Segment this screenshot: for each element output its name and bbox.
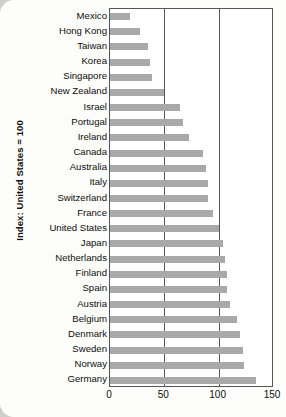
- category-label: Spain: [14, 282, 107, 293]
- category-label: Sweden: [14, 343, 107, 354]
- category-label: Netherlands: [14, 252, 107, 263]
- plot-area: [109, 8, 273, 387]
- bar: [110, 89, 164, 96]
- bar: [110, 301, 230, 308]
- bar: [110, 28, 140, 35]
- bar: [110, 13, 130, 20]
- bar: [110, 256, 225, 263]
- category-label: Canada: [14, 146, 107, 157]
- x-tick-label: 50: [143, 389, 183, 400]
- category-label: New Zealand: [14, 85, 107, 96]
- bar: [110, 43, 148, 50]
- bar: [110, 180, 208, 187]
- category-label: Switzerland: [14, 192, 107, 203]
- category-label: Japan: [14, 237, 107, 248]
- bar: [110, 377, 256, 384]
- bar: [110, 59, 150, 66]
- category-label: Israel: [14, 101, 107, 112]
- category-label: Taiwan: [14, 40, 107, 51]
- bar: [110, 331, 240, 338]
- category-label: Germany: [14, 373, 107, 384]
- bar: [110, 225, 219, 232]
- bar-chart: MexicoHong KongTaiwanKoreaSingaporeNew Z…: [0, 0, 286, 417]
- gridline-100: [219, 9, 220, 386]
- category-label: Australia: [14, 161, 107, 172]
- category-axis-labels: MexicoHong KongTaiwanKoreaSingaporeNew Z…: [14, 8, 107, 387]
- bar: [110, 240, 223, 247]
- category-label: Ireland: [14, 131, 107, 142]
- category-label: Italy: [14, 176, 107, 187]
- x-tick-label: 0: [89, 389, 129, 400]
- category-label: France: [14, 207, 107, 218]
- bar: [110, 271, 227, 278]
- bar: [110, 362, 244, 369]
- x-tick-label: 150: [252, 389, 286, 400]
- x-tick-label: 100: [198, 389, 238, 400]
- bar: [110, 286, 227, 293]
- bar: [110, 347, 243, 354]
- category-label: Finland: [14, 267, 107, 278]
- category-label: Hong Kong: [14, 25, 107, 36]
- bar: [110, 134, 189, 141]
- category-label: United States: [14, 222, 107, 233]
- category-label: Norway: [14, 358, 107, 369]
- bar: [110, 104, 180, 111]
- bar: [110, 119, 183, 126]
- category-label: Denmark: [14, 328, 107, 339]
- bar: [110, 150, 203, 157]
- bar: [110, 210, 213, 217]
- category-label: Austria: [14, 298, 107, 309]
- bar: [110, 165, 206, 172]
- category-label: Belgium: [14, 313, 107, 324]
- bar: [110, 195, 208, 202]
- category-label: Portugal: [14, 116, 107, 127]
- category-label: Mexico: [14, 10, 107, 21]
- bar: [110, 74, 152, 81]
- bar: [110, 316, 237, 323]
- category-label: Korea: [14, 55, 107, 66]
- category-label: Singapore: [14, 70, 107, 81]
- chart-card: Index: United States = 100 MexicoHong Ko…: [0, 0, 286, 417]
- x-axis-tick-labels: 050100150: [0, 389, 286, 405]
